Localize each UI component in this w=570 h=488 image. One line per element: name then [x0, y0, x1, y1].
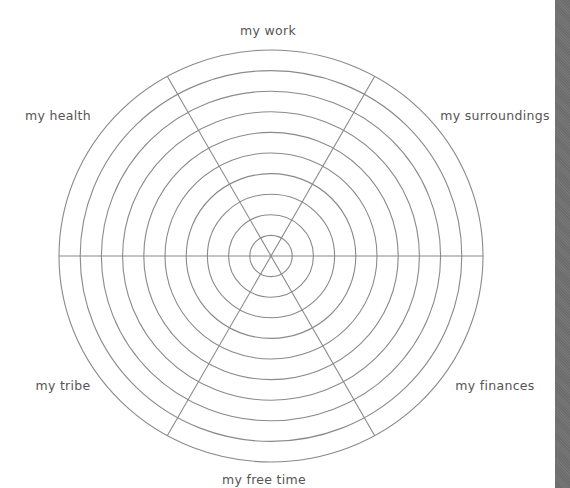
label-my-health: my health	[25, 108, 91, 124]
wheel-diagram	[0, 0, 555, 488]
label-my-surroundings: my surroundings	[440, 108, 550, 124]
label-my-free-time: my free time	[222, 472, 306, 488]
label-my-finances: my finances	[455, 378, 534, 394]
wheel-of-life-page: my work my surroundings my finances my f…	[0, 0, 570, 488]
label-my-work: my work	[240, 23, 296, 39]
spokes	[59, 76, 483, 435]
label-my-tribe: my tribe	[35, 378, 90, 394]
side-scrollbar[interactable]	[555, 0, 570, 488]
